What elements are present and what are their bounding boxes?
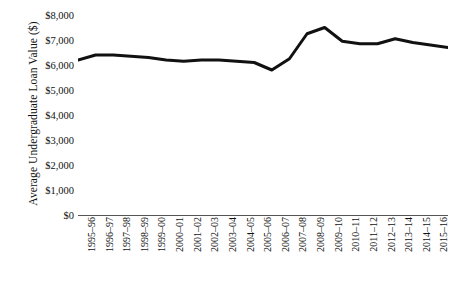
y-axis-tick-label: $5,000	[30, 85, 74, 96]
line-chart-svg	[78, 10, 448, 216]
plot-area	[78, 10, 448, 216]
x-axis-tick-label: 2005–06	[261, 217, 275, 301]
x-axis-tick-label: 2012–13	[385, 217, 399, 301]
y-axis-tick-label: $4,000	[30, 110, 74, 121]
x-axis-tick-labels: 1995–961996–971997–981998–991999–002000–…	[78, 217, 454, 303]
x-axis-tick-label: 1996–97	[103, 217, 117, 301]
x-axis-tick-label: 2006–07	[279, 217, 293, 301]
y-axis-tick-labels: $8,000$7,000$6,000$5,000$4,000$3,000$2,0…	[28, 0, 74, 303]
x-axis-tick-label: 2011–12	[367, 217, 381, 301]
x-axis-tick-label: 2008–09	[314, 217, 328, 301]
y-axis-tick-label: $7,000	[30, 35, 74, 46]
y-axis-tick-label: $3,000	[30, 135, 74, 146]
x-axis-tick-label: 1997–98	[120, 217, 134, 301]
x-axis-tick-label: 2003–04	[226, 217, 240, 301]
y-axis-tick-label: $8,000	[30, 10, 74, 21]
x-axis-tick-label: 2000–01	[173, 217, 187, 301]
x-axis-tick-label: 2010–11	[349, 217, 363, 301]
loan-value-series-line	[78, 28, 448, 71]
y-axis-tick-label: $1,000	[30, 185, 74, 196]
y-axis-tick-label: $0	[30, 210, 74, 221]
x-axis-tick-label: 2004–05	[244, 217, 258, 301]
x-axis-tick-label: 2009–10	[332, 217, 346, 301]
x-axis-tick-label: 1995–96	[85, 217, 99, 301]
x-axis-tick-label: 2015–16	[437, 217, 451, 301]
y-axis-tick-label: $6,000	[30, 60, 74, 71]
x-axis-tick-label: 2014–15	[420, 217, 434, 301]
x-axis-tick-label: 2013–14	[402, 217, 416, 301]
x-axis-tick-label: 1998–99	[138, 217, 152, 301]
chart-container: Average Undergraduate Loan Value ($) $8,…	[0, 0, 454, 303]
y-axis-tick-label: $2,000	[30, 160, 74, 171]
x-axis-tick-label: 1999–00	[155, 217, 169, 301]
x-axis-tick-label: 2001–02	[191, 217, 205, 301]
x-axis-tick-label: 2002–03	[208, 217, 222, 301]
x-axis-tick-label: 2007–08	[296, 217, 310, 301]
